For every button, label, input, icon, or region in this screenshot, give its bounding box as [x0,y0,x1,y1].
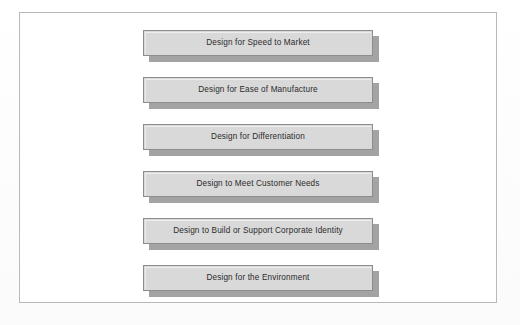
box-label: Design for Ease of Manufacture [198,86,318,94]
diagram-box-5[interactable]: Design to Build or Support Corporate Ide… [143,218,379,250]
box-label: Design for Differentiation [211,133,305,141]
box-face[interactable]: Design for Speed to Market [143,30,373,56]
box-label: Design for Speed to Market [206,39,310,47]
box-face[interactable]: Design to Build or Support Corporate Ide… [143,218,373,244]
diagram-box-2[interactable]: Design for Ease of Manufacture [143,77,379,109]
box-label: Design to Build or Support Corporate Ide… [173,227,343,235]
diagram-box-3[interactable]: Design for Differentiation [143,124,379,156]
box-face[interactable]: Design to Meet Customer Needs [143,171,373,197]
diagram-frame: Design for Speed to Market Design for Ea… [19,12,497,303]
figure-root: Design for Speed to Market Design for Ea… [0,0,520,325]
box-face[interactable]: Design for Differentiation [143,124,373,150]
box-face[interactable]: Design for the Environment [143,265,373,291]
box-stack: Design for Speed to Market Design for Ea… [20,13,498,304]
diagram-box-4[interactable]: Design to Meet Customer Needs [143,171,379,203]
box-face[interactable]: Design for Ease of Manufacture [143,77,373,103]
diagram-box-6[interactable]: Design for the Environment [143,265,379,297]
box-label: Design to Meet Customer Needs [196,180,319,188]
diagram-box-1[interactable]: Design for Speed to Market [143,30,379,62]
box-label: Design for the Environment [206,274,309,282]
